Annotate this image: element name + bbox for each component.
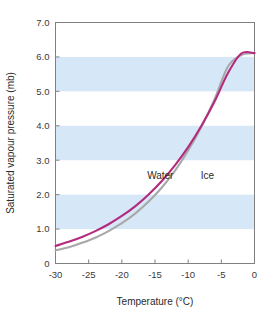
- x-axis-title: Temperature (°C): [117, 296, 194, 307]
- saturated-vapour-pressure-chart: 01.02.03.04.05.06.07.0 -30-25-20-15-10-5…: [0, 0, 269, 316]
- x-tick-label-5: -5: [217, 269, 225, 280]
- y-tick-label-1: 1.0: [36, 223, 49, 234]
- x-tick-label-2: -20: [115, 269, 129, 280]
- y-tick-label-0: 0: [44, 258, 49, 269]
- y-tick-label-7: 7.0: [36, 17, 49, 28]
- horizontal-band-group: [56, 57, 255, 229]
- y-tick-label-3: 3.0: [36, 155, 49, 166]
- band-0: [56, 195, 255, 229]
- y-axis-title: Saturated vapour pressure (mb): [5, 72, 16, 214]
- y-tick-label-2: 2.0: [36, 189, 49, 200]
- x-tick-label-0: -30: [49, 269, 63, 280]
- x-tick-label-3: -15: [148, 269, 162, 280]
- series-label-water: Water: [147, 170, 174, 181]
- x-tick-label-6: 0: [252, 269, 257, 280]
- x-tick-label-1: -25: [82, 269, 96, 280]
- x-tick-label-4: -10: [181, 269, 195, 280]
- y-tick-label-5: 5.0: [36, 86, 49, 97]
- chart-figure: 01.02.03.04.05.06.07.0 -30-25-20-15-10-5…: [0, 0, 269, 316]
- band-1: [56, 126, 255, 160]
- y-tick-label-4: 4.0: [36, 120, 49, 131]
- y-tick-label-6: 6.0: [36, 51, 49, 62]
- series-label-ice: Ice: [201, 170, 215, 181]
